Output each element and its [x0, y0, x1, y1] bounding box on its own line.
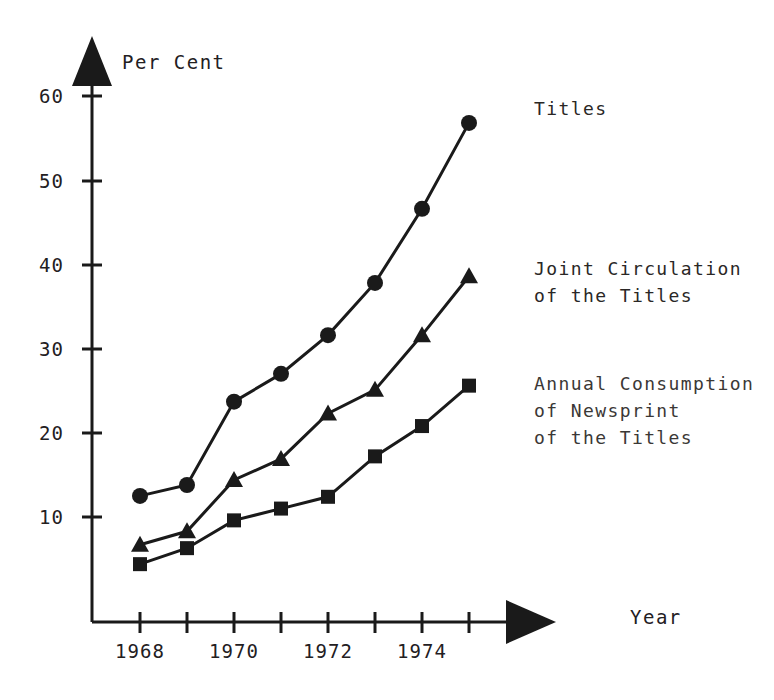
x-tick-label-1972: 1972 — [288, 640, 368, 662]
data-point-square-1969 — [180, 541, 194, 555]
series-label-joint-circulation: Joint Circulation of the Titles — [534, 255, 742, 309]
x-tick-label-1974: 1974 — [382, 640, 462, 662]
data-point-circle-1975 — [461, 115, 477, 131]
data-point-triangle-1975 — [460, 267, 478, 283]
series-label-annual-consumption: Annual Consumption of Newsprint of the T… — [534, 370, 754, 451]
data-point-square-1974 — [415, 419, 429, 433]
chart-figure: Per Cent Year 10 20 30 40 50 60 1968 197… — [0, 0, 774, 700]
data-point-circle-1969 — [179, 477, 195, 493]
data-point-square-1975 — [462, 379, 476, 393]
data-series-layer — [131, 115, 478, 571]
series-line-0 — [140, 123, 469, 496]
y-tick-label-20: 20 — [20, 422, 64, 444]
y-tick-label-30: 30 — [20, 338, 64, 360]
data-point-circle-1971 — [273, 366, 289, 382]
data-point-square-1971 — [274, 502, 288, 516]
data-point-square-1973 — [368, 449, 382, 463]
data-point-circle-1968 — [132, 488, 148, 504]
series-circle — [132, 115, 477, 504]
chart-canvas — [0, 0, 774, 700]
series-triangle — [131, 267, 478, 552]
data-point-circle-1970 — [226, 394, 242, 410]
series-label-titles: Titles — [534, 95, 607, 122]
y-axis-title: Per Cent — [122, 51, 226, 73]
data-point-circle-1972 — [320, 327, 336, 343]
data-point-triangle-1970 — [225, 471, 243, 487]
y-axis-arrow-icon — [72, 36, 112, 86]
data-point-square-1970 — [227, 513, 241, 527]
series-square — [133, 379, 476, 572]
y-tick-label-10: 10 — [20, 506, 64, 528]
x-axis-title: Year — [630, 606, 682, 628]
y-tick-label-40: 40 — [20, 254, 64, 276]
data-point-circle-1974 — [414, 201, 430, 217]
data-point-triangle-1972 — [319, 404, 337, 420]
data-point-square-1968 — [133, 557, 147, 571]
y-tick-label-50: 50 — [20, 170, 64, 192]
x-tick-label-1968: 1968 — [100, 640, 180, 662]
y-tick-label-60: 60 — [20, 85, 64, 107]
series-line-1 — [140, 276, 469, 545]
x-axis-arrow-icon — [506, 600, 556, 644]
data-point-circle-1973 — [367, 275, 383, 291]
data-point-square-1972 — [321, 490, 335, 504]
x-tick-label-1970: 1970 — [194, 640, 274, 662]
